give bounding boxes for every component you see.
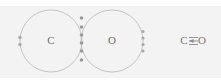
figure-root: C O C <box>0 0 221 82</box>
electron-dot-diagram: C O C <box>0 0 221 82</box>
condensed-formula: C O <box>180 34 206 46</box>
triple-bond-symbol <box>189 38 198 45</box>
oxygen-atom-label: O <box>108 34 116 46</box>
dative-arrow-head <box>189 39 194 43</box>
formula-left-atom: C <box>180 34 187 46</box>
carbon-atom-label: C <box>47 34 54 46</box>
formula-right-atom: O <box>198 34 206 46</box>
